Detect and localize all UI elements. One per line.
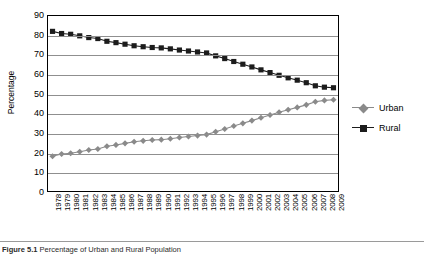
x-tick-1999: 1999 (247, 194, 255, 211)
gridline-50 (48, 95, 338, 96)
x-tick-1987: 1987 (137, 194, 145, 211)
series-svg (48, 16, 338, 191)
y-axis-tick-labels: 0102030405060708090 (18, 15, 44, 192)
legend-label-urban: Urban (374, 103, 404, 113)
legend-swatch-urban (352, 103, 374, 113)
marker-urban-1990 (158, 137, 164, 143)
marker-rural-1989 (150, 45, 155, 50)
marker-urban-1999 (240, 120, 246, 126)
marker-rural-1997 (222, 56, 227, 61)
line-chart: Percentage 0102030405060708090 197819791… (0, 0, 424, 240)
marker-urban-1997 (222, 126, 228, 132)
caption-divider (0, 241, 424, 242)
marker-rural-1988 (141, 44, 146, 49)
x-tick-2002: 2002 (274, 194, 282, 211)
marker-rural-1984 (104, 39, 109, 44)
x-tick-1989: 1989 (155, 194, 163, 211)
x-tick-2007: 2007 (320, 194, 328, 211)
marker-urban-1982 (86, 147, 92, 153)
x-tick-2003: 2003 (283, 194, 291, 211)
x-tick-1984: 1984 (110, 194, 118, 211)
marker-urban-1986 (122, 140, 128, 146)
legend-item-rural[interactable]: Rural (352, 120, 422, 136)
series-line-rural (53, 31, 334, 87)
marker-rural-1992 (177, 47, 182, 52)
x-tick-1991: 1991 (174, 194, 182, 211)
marker-urban-1989 (149, 137, 155, 143)
y-tick-30: 30 (22, 129, 44, 138)
marker-urban-2006 (303, 102, 309, 108)
x-tick-1978: 1978 (55, 194, 63, 211)
series-urban (49, 97, 336, 160)
marker-rural-1987 (132, 43, 137, 48)
y-tick-0: 0 (22, 188, 44, 197)
marker-urban-2005 (294, 104, 300, 110)
y-tick-10: 10 (22, 168, 44, 177)
x-tick-2006: 2006 (311, 194, 319, 211)
x-tick-1990: 1990 (165, 194, 173, 211)
caption-label: Figure (2, 245, 25, 254)
plot-area (47, 15, 339, 192)
marker-urban-1998 (231, 123, 237, 129)
marker-rural-2005 (295, 78, 300, 83)
y-tick-70: 70 (22, 50, 44, 59)
marker-urban-2000 (249, 118, 255, 124)
marker-urban-1992 (176, 134, 182, 140)
legend-swatch-rural (352, 123, 374, 133)
x-tick-1979: 1979 (64, 194, 72, 211)
marker-rural-1983 (95, 36, 100, 41)
marker-rural-2009 (331, 85, 336, 90)
marker-urban-2009 (330, 97, 336, 103)
marker-urban-1987 (131, 139, 137, 145)
x-tick-2001: 2001 (265, 194, 273, 211)
y-tick-40: 40 (22, 109, 44, 118)
marker-rural-1993 (186, 48, 191, 53)
x-tick-1982: 1982 (92, 194, 100, 211)
y-tick-90: 90 (22, 11, 44, 20)
x-tick-1993: 1993 (192, 194, 200, 211)
gridline-20 (48, 154, 338, 155)
x-tick-1995: 1995 (210, 194, 218, 211)
caption-text: Percentage of Urban and Rural Population (40, 245, 181, 254)
series-rural (50, 29, 336, 91)
marker-rural-1985 (113, 40, 118, 45)
marker-rural-1978 (50, 29, 55, 34)
x-tick-1992: 1992 (183, 194, 191, 211)
y-tick-50: 50 (22, 89, 44, 98)
gridline-30 (48, 134, 338, 135)
marker-rural-1998 (231, 59, 236, 64)
marker-urban-1983 (95, 146, 101, 152)
x-tick-2008: 2008 (329, 194, 337, 211)
marker-rural-1991 (168, 46, 173, 51)
marker-urban-2001 (258, 115, 264, 121)
gridline-60 (48, 75, 338, 76)
marker-rural-2006 (304, 80, 309, 85)
marker-rural-1994 (195, 49, 200, 54)
legend-marker-diamond-icon (359, 103, 369, 113)
x-tick-1981: 1981 (82, 194, 90, 211)
gridline-10 (48, 173, 338, 174)
legend-item-urban[interactable]: Urban (352, 100, 422, 116)
figure-caption: Figure 5.1 Percentage of Urban and Rural… (2, 245, 422, 255)
caption-number: 5.1 (27, 245, 37, 254)
marker-rural-1990 (159, 45, 164, 50)
x-tick-2005: 2005 (301, 194, 309, 211)
legend-marker-square-icon (360, 125, 367, 132)
marker-urban-2007 (312, 99, 318, 105)
marker-rural-1999 (240, 62, 245, 67)
marker-rural-2001 (258, 67, 263, 72)
gridline-40 (48, 114, 338, 115)
series-line-urban (53, 100, 334, 156)
legend-label-rural: Rural (374, 123, 401, 133)
gridline-70 (48, 55, 338, 56)
marker-urban-1991 (167, 136, 173, 142)
marker-rural-2007 (313, 83, 318, 88)
marker-rural-1986 (122, 42, 127, 47)
figure-container: Percentage 0102030405060708090 197819791… (0, 0, 424, 255)
marker-rural-2008 (322, 85, 327, 90)
y-tick-80: 80 (22, 30, 44, 39)
x-tick-1985: 1985 (119, 194, 127, 211)
marker-rural-2000 (249, 64, 254, 69)
marker-urban-1985 (113, 142, 119, 148)
marker-urban-1984 (104, 143, 110, 149)
